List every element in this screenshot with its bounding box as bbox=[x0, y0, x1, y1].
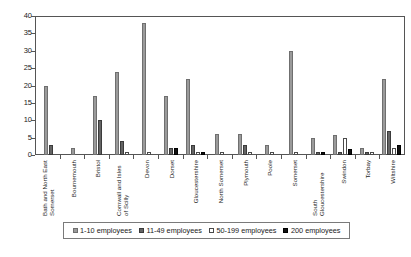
bar bbox=[164, 96, 168, 155]
x-tick-mark bbox=[36, 155, 61, 159]
x-label-cell: South Gloucestershire bbox=[306, 160, 331, 218]
legend-item[interactable]: 1-10 employees bbox=[73, 226, 132, 235]
x-tick-label: Gloucestershire bbox=[192, 160, 199, 203]
legend-label: 11-49 employees bbox=[146, 226, 201, 235]
bar bbox=[387, 131, 391, 155]
x-axis-tickmarks bbox=[36, 155, 404, 159]
x-label-cell: Bath and North East Somerset bbox=[36, 160, 61, 218]
x-tick-mark bbox=[282, 155, 307, 159]
bar bbox=[174, 148, 178, 155]
x-tick-label: Bristol bbox=[94, 160, 101, 177]
bar bbox=[93, 96, 97, 155]
x-tick-mark bbox=[233, 155, 258, 159]
legend-swatch-icon bbox=[283, 228, 288, 233]
bar-group bbox=[306, 17, 331, 155]
bar-group bbox=[232, 17, 257, 155]
bar-group bbox=[85, 17, 110, 155]
x-label-cell: Wiltshire bbox=[379, 160, 404, 218]
bar bbox=[71, 148, 75, 155]
bar-group bbox=[257, 17, 282, 155]
bar bbox=[49, 145, 53, 155]
bar-group bbox=[36, 17, 61, 155]
x-tick-mark bbox=[85, 155, 110, 159]
x-tick-mark bbox=[356, 155, 381, 159]
x-tick-mark bbox=[307, 155, 332, 159]
bar-group bbox=[134, 17, 159, 155]
bar-group bbox=[330, 17, 355, 155]
x-label-cell: Somerset bbox=[281, 160, 306, 218]
x-label-cell: Bournemouth bbox=[61, 160, 86, 218]
bar-groups bbox=[36, 17, 404, 155]
legend-label: 1-10 employees bbox=[80, 226, 132, 235]
x-tick-label: Swindon bbox=[339, 160, 346, 184]
bar bbox=[98, 120, 102, 155]
bar bbox=[44, 86, 48, 156]
x-tick-label: Poole bbox=[266, 160, 273, 176]
bar-chart: 0510152025303540 Bath and North East Som… bbox=[0, 0, 411, 257]
x-label-cell: Swindon bbox=[330, 160, 355, 218]
legend-item[interactable]: 11-49 employees bbox=[139, 226, 202, 235]
legend-label: 50-199 employees bbox=[216, 226, 276, 235]
bar-group bbox=[61, 17, 86, 155]
x-label-cell: Poole bbox=[257, 160, 282, 218]
x-tick-mark bbox=[134, 155, 159, 159]
x-label-cell: Cornwall and Isles of Scilly bbox=[110, 160, 135, 218]
legend-swatch-icon bbox=[209, 228, 214, 233]
x-tick-label: Somerset bbox=[290, 160, 297, 186]
bar bbox=[169, 148, 173, 155]
x-label-cell: Gloucestershire bbox=[183, 160, 208, 218]
x-tick-label: South Gloucestershire bbox=[311, 160, 325, 216]
bar-group bbox=[281, 17, 306, 155]
bar bbox=[186, 79, 190, 155]
x-label-cell: Dorset bbox=[159, 160, 184, 218]
x-tick-label: Wiltshire bbox=[388, 160, 395, 184]
bar bbox=[243, 145, 247, 155]
bar bbox=[343, 138, 347, 155]
bar-group bbox=[110, 17, 135, 155]
bar-group bbox=[355, 17, 380, 155]
bar bbox=[382, 79, 386, 155]
x-axis-labels: Bath and North East SomersetBournemouthB… bbox=[36, 160, 404, 218]
bar bbox=[397, 145, 401, 155]
chart-legend: 1-10 employees11-49 employees50-199 empl… bbox=[63, 222, 350, 239]
legend-swatch-icon bbox=[139, 228, 144, 233]
bar-group bbox=[183, 17, 208, 155]
x-label-cell: Plymouth bbox=[232, 160, 257, 218]
legend-item[interactable]: 50-199 employees bbox=[209, 226, 277, 235]
x-tick-mark bbox=[110, 155, 135, 159]
bar bbox=[289, 51, 293, 155]
x-tick-label: Bath and North East Somerset bbox=[41, 160, 55, 216]
bar bbox=[311, 138, 315, 155]
bar bbox=[265, 145, 269, 155]
bar-group bbox=[379, 17, 404, 155]
x-tick-mark bbox=[257, 155, 282, 159]
x-tick-label: North Somerset bbox=[216, 160, 223, 203]
legend-label: 200 employees bbox=[291, 226, 341, 235]
bar bbox=[333, 135, 337, 155]
x-tick-label: Plymouth bbox=[241, 160, 248, 186]
x-tick-label: Bournemouth bbox=[69, 160, 76, 197]
bar bbox=[392, 148, 396, 155]
x-tick-label: Torbay bbox=[364, 160, 371, 179]
x-tick-label: Cornwall and Isles of Scilly bbox=[115, 160, 129, 216]
x-tick-mark bbox=[208, 155, 233, 159]
legend-swatch-icon bbox=[73, 228, 78, 233]
bar bbox=[120, 141, 124, 155]
x-label-cell: Bristol bbox=[85, 160, 110, 218]
bar bbox=[238, 134, 242, 155]
bar bbox=[191, 145, 195, 155]
x-tick-mark bbox=[184, 155, 209, 159]
bar bbox=[360, 148, 364, 155]
x-label-cell: Devon bbox=[134, 160, 159, 218]
y-axis-labels: 0510152025303540 bbox=[12, 16, 32, 155]
y-tick-mark bbox=[31, 155, 35, 156]
bar bbox=[115, 72, 119, 155]
x-label-cell: North Somerset bbox=[208, 160, 233, 218]
x-tick-mark bbox=[380, 155, 404, 159]
legend-item[interactable]: 200 employees bbox=[283, 226, 340, 235]
x-tick-label: Dorset bbox=[167, 160, 174, 178]
x-tick-mark bbox=[331, 155, 356, 159]
bar-group bbox=[159, 17, 184, 155]
bar-group bbox=[208, 17, 233, 155]
bar bbox=[215, 134, 219, 155]
